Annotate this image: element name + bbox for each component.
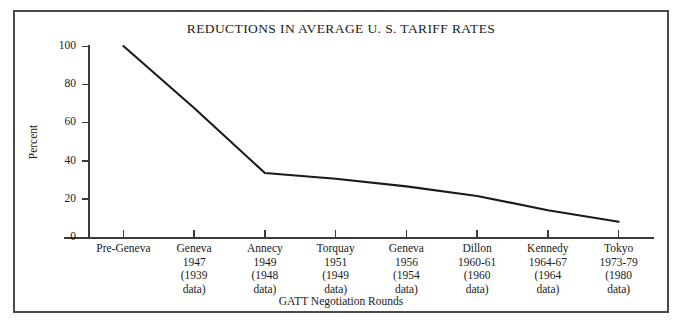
chart-figure: REDUCTIONS IN AVERAGE U. S. TARIFF RATES… [0, 0, 682, 325]
x-axis-caption: GATT Negotiation Rounds [0, 295, 682, 307]
tariff-rate-line [123, 46, 618, 222]
series-layer [0, 0, 682, 325]
